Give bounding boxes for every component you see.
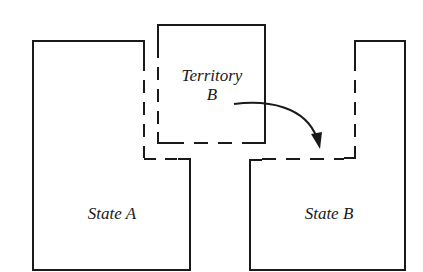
transfer-arrow [234,103,317,138]
territory-b-label: Territory B [170,66,254,104]
state-b-label: State B [287,204,371,223]
territory-transfer-diagram [0,0,423,272]
state-b-outline [250,41,405,270]
arrow-head-icon [311,132,322,149]
state-a-outline [33,41,190,270]
territory-b-label-line2: B [170,85,254,104]
state-a-label: State A [70,204,154,223]
territory-b-label-line1: Territory [170,66,254,85]
